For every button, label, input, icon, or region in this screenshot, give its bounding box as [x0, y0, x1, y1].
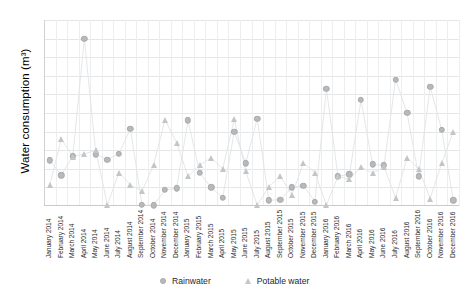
- y-axis-title: Water consumption (m³): [19, 26, 31, 196]
- x-tick-label: October 2015: [287, 219, 294, 258]
- x-tick-label: May 2015: [230, 229, 237, 258]
- x-tick-label: April 2015: [218, 229, 225, 258]
- x-tick-label: January 2015: [183, 219, 190, 258]
- data-point-potable-water: [151, 162, 157, 168]
- circle-marker-icon: [160, 278, 166, 284]
- x-tick-label: July 2016: [391, 230, 398, 258]
- x-tick-label: August 2015: [264, 222, 271, 258]
- data-point-potable-water: [93, 147, 99, 153]
- x-tick-label: March 2016: [345, 224, 352, 258]
- data-point-potable-water: [370, 170, 376, 176]
- x-tick-label: September 2014: [137, 210, 144, 258]
- data-point-potable-water: [208, 155, 214, 161]
- data-point-potable-water: [416, 166, 422, 172]
- series-line: [50, 119, 453, 205]
- data-point-potable-water: [127, 182, 133, 188]
- x-tick-label: December 2015: [310, 212, 317, 258]
- legend-item-potable-water[interactable]: Potable water: [245, 276, 310, 286]
- x-tick-label: October 2014: [149, 219, 156, 258]
- x-tick-label: November 2015: [299, 212, 306, 258]
- x-tick-label: September 2016: [414, 210, 421, 258]
- data-point-potable-water: [139, 188, 145, 194]
- triangle-marker-icon: [245, 278, 251, 284]
- x-tick-label: February 2015: [195, 216, 202, 258]
- x-tick-label: July 2015: [253, 230, 260, 258]
- legend-item-rainwater[interactable]: Rainwater: [160, 276, 211, 286]
- data-point-potable-water: [266, 184, 272, 190]
- data-point-potable-water: [404, 155, 410, 161]
- legend-label: Potable water: [257, 276, 310, 286]
- x-tick-label: November 2014: [160, 212, 167, 258]
- x-tick-label: June 2015: [241, 228, 248, 258]
- data-point-potable-water: [47, 182, 53, 188]
- gridline-vertical: [459, 20, 460, 206]
- x-tick-label: March 2015: [207, 224, 214, 258]
- x-tick-label: November 2016: [437, 212, 444, 258]
- data-point-potable-water: [358, 164, 364, 170]
- data-point-potable-water: [116, 170, 122, 176]
- x-tick-label: May 2016: [368, 229, 375, 258]
- x-tick-label: December 2016: [449, 212, 456, 258]
- x-tick-label: August 2014: [126, 222, 133, 258]
- x-tick-label: October 2016: [426, 219, 433, 258]
- x-tick-label: March 2014: [68, 224, 75, 258]
- data-point-potable-water: [439, 160, 445, 166]
- x-tick-label: January 2014: [45, 219, 52, 258]
- x-tick-label: July 2014: [114, 230, 121, 258]
- data-point-potable-water: [289, 192, 295, 198]
- legend-label: Rainwater: [172, 276, 211, 286]
- data-point-potable-water: [185, 173, 191, 179]
- series-line: [50, 39, 453, 206]
- x-tick-label: January 2016: [322, 219, 329, 258]
- x-tick-label: April 2014: [80, 229, 87, 258]
- data-point-potable-water: [427, 196, 433, 202]
- data-point-potable-water: [450, 129, 456, 135]
- x-tick-label: May 2014: [91, 229, 98, 258]
- x-tick-label: September 2015: [276, 210, 283, 258]
- x-tick-label: June 2014: [103, 228, 110, 258]
- data-point-potable-water: [335, 173, 341, 179]
- x-tick-label: August 2016: [403, 222, 410, 258]
- series-connector-lines: [44, 20, 459, 206]
- data-point-potable-water: [174, 140, 180, 146]
- x-tick-label: April 2016: [356, 229, 363, 258]
- data-point-potable-water: [300, 160, 306, 166]
- data-point-potable-water: [243, 168, 249, 174]
- data-point-potable-water: [346, 176, 352, 182]
- data-point-potable-water: [197, 162, 203, 168]
- data-point-potable-water: [393, 195, 399, 201]
- x-tick-label: December 2014: [172, 212, 179, 258]
- x-tick-label: June 2016: [379, 228, 386, 258]
- data-point-potable-water: [162, 117, 168, 123]
- data-point-potable-water: [58, 136, 64, 142]
- plot-area: [44, 20, 459, 206]
- water-consumption-chart: Water consumption (m³) 05101520253035404…: [0, 0, 469, 290]
- x-tick-label: February 2016: [333, 216, 340, 258]
- x-axis-tick-labels: January 2014February 2014March 2014April…: [44, 208, 459, 258]
- data-point-potable-water: [277, 173, 283, 179]
- chart-legend: Rainwater Potable water: [0, 276, 469, 286]
- x-tick-label: February 2014: [57, 216, 64, 258]
- data-point-potable-water: [312, 170, 318, 176]
- data-point-potable-water: [381, 164, 387, 170]
- data-point-potable-water: [70, 154, 76, 160]
- data-point-potable-water: [231, 116, 237, 122]
- data-point-potable-water: [220, 166, 226, 172]
- data-point-potable-water: [81, 151, 87, 157]
